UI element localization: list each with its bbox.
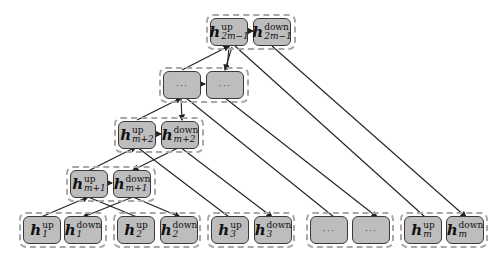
subscript: 2m−1	[264, 32, 292, 41]
node-ellipsis-down: ···	[206, 71, 244, 99]
subscript: 2m−1	[221, 32, 249, 41]
node-h-2m-1-down: h down2m−1	[253, 18, 291, 46]
node-h-m-down: h downm	[446, 216, 484, 244]
node-h-m+2-down: h downm+2	[161, 121, 199, 149]
node-h-2m-1-up: h up2m−1	[210, 18, 248, 46]
node-h-m+1-down: h downm+1	[113, 170, 151, 198]
node-h-3-up: h up3	[211, 216, 249, 244]
h-symbol: h	[209, 25, 220, 40]
node-h-m+1-up: h upm+1	[70, 170, 108, 198]
node-leaf-ellipsis-down: ···	[352, 216, 390, 244]
node-h-2-down: h down2	[160, 216, 198, 244]
node-ellipsis-up: ···	[163, 71, 201, 99]
caption	[150, 252, 400, 262]
node-leaf-ellipsis-up: ···	[310, 216, 348, 244]
h-symbol: h	[252, 25, 263, 40]
node-h-3-down: h down3	[254, 216, 292, 244]
node-h-m-up: h upm	[404, 216, 442, 244]
node-h-m+2-up: h upm+2	[118, 121, 156, 149]
node-h-1-up: h up1	[23, 216, 61, 244]
node-h-1-down: h down1	[64, 216, 102, 244]
node-h-2-up: h up2	[117, 216, 155, 244]
